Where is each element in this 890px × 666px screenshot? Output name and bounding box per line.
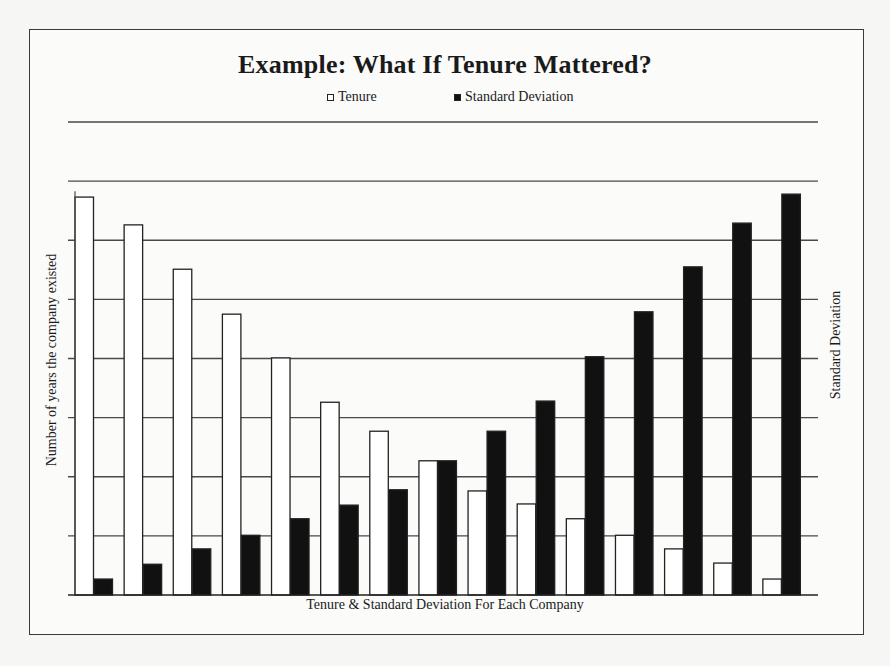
bar-tenure <box>124 225 143 595</box>
bar-standard-deviation <box>634 312 653 595</box>
bar-tenure <box>321 402 340 595</box>
bar-tenure <box>763 579 782 595</box>
bar-standard-deviation <box>241 535 260 595</box>
y-axis-label-left: Number of years the company existed <box>44 254 60 467</box>
bar-tenure <box>714 563 733 595</box>
bar-tenure <box>370 431 389 595</box>
bar-standard-deviation <box>684 267 703 595</box>
bar-tenure <box>75 197 94 595</box>
bar-tenure <box>419 461 438 595</box>
bar-tenure <box>615 535 634 595</box>
bar-standard-deviation <box>94 579 113 595</box>
bar-standard-deviation <box>536 401 555 595</box>
bars <box>75 194 800 595</box>
bar-standard-deviation <box>389 490 408 595</box>
y-axis-label-right: Standard Deviation <box>828 291 844 399</box>
bar-tenure <box>222 314 241 595</box>
bar-standard-deviation <box>585 357 604 595</box>
bar-tenure <box>272 358 291 595</box>
x-axis-label: Tenure & Standard Deviation For Each Com… <box>0 597 890 613</box>
bar-standard-deviation <box>487 431 506 595</box>
bar-tenure <box>517 504 536 595</box>
bar-standard-deviation <box>192 549 211 595</box>
bar-standard-deviation <box>340 505 359 595</box>
bar-standard-deviation <box>733 223 752 595</box>
bar-standard-deviation <box>782 194 801 595</box>
bar-tenure <box>665 549 684 595</box>
bar-standard-deviation <box>143 564 162 595</box>
bar-tenure <box>468 491 487 595</box>
bar-tenure <box>173 269 192 595</box>
bar-tenure <box>566 519 585 595</box>
bar-standard-deviation <box>291 519 310 595</box>
plot-area <box>0 0 890 666</box>
bar-standard-deviation <box>438 461 457 595</box>
